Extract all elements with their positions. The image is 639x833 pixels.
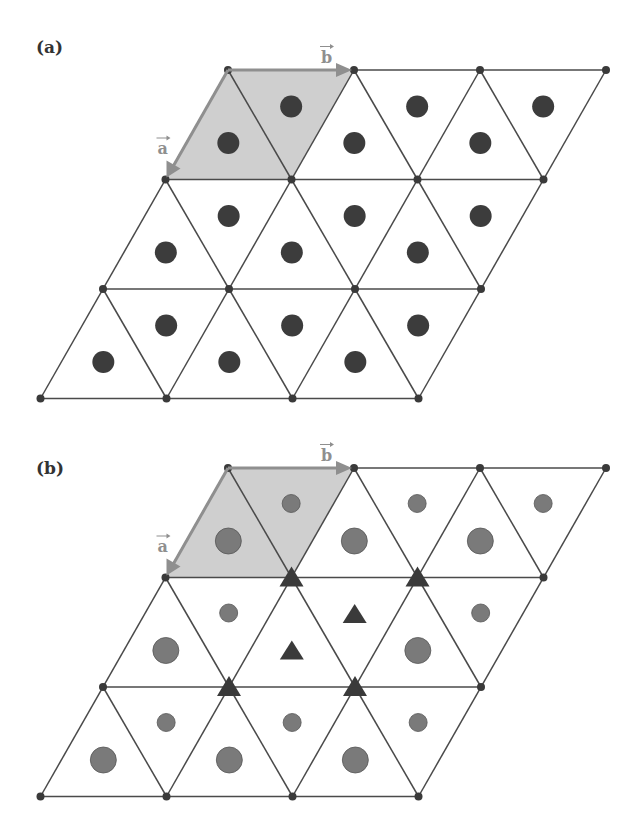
small-atom-dot (408, 495, 426, 513)
triangle-marker-icon (343, 676, 367, 696)
lattice-node (37, 395, 45, 403)
atom-dot (469, 132, 491, 154)
lattice-line (355, 289, 419, 399)
lattice-node (289, 793, 297, 801)
lattice-node (602, 464, 610, 472)
lattice-line (418, 180, 482, 290)
lattice-node (414, 176, 422, 184)
atom-dot (281, 315, 303, 337)
lattice-line (103, 687, 167, 797)
triangle-marker-icon (217, 676, 241, 696)
large-atom-dot (90, 747, 116, 773)
lattice-node (99, 285, 107, 293)
lattice-node (163, 395, 171, 403)
panel-label: (a) (36, 37, 63, 57)
lattice-line (354, 70, 418, 180)
atom-dot (344, 351, 366, 373)
triangle-marker-icon (343, 604, 367, 623)
lattice-line (166, 180, 230, 290)
lattice-node (288, 176, 296, 184)
large-atom-dot (405, 638, 431, 664)
lattice-line (419, 70, 607, 399)
lattice-line (229, 289, 293, 399)
panel-label: (b) (36, 458, 64, 478)
lattice-line (166, 578, 230, 688)
atom-dot (218, 351, 240, 373)
triangle-marker-icon (406, 567, 430, 587)
small-atom-dot (409, 714, 427, 732)
vector-a-label: a (158, 139, 168, 158)
lattice-node (477, 285, 485, 293)
lattice-line (103, 289, 167, 399)
atom-dot (407, 242, 429, 264)
large-atom-dot (341, 528, 367, 554)
lattice-node (415, 793, 423, 801)
atom-dot (344, 205, 366, 227)
atom-dot (155, 242, 177, 264)
lattice-node (162, 176, 170, 184)
lattice-node (225, 285, 233, 293)
small-atom-dot (472, 604, 490, 622)
vector-b-label: b (321, 48, 332, 67)
atom-dot (343, 132, 365, 154)
large-atom-dot (216, 747, 242, 773)
lattice-node (163, 793, 171, 801)
lattice-line (480, 468, 544, 578)
lattice-line (355, 687, 419, 797)
atom-dot (92, 351, 114, 373)
atom-dot (217, 132, 239, 154)
lattice-node (351, 285, 359, 293)
atom-dot (532, 96, 554, 118)
lattice-node (99, 683, 107, 691)
lattice-node (477, 683, 485, 691)
atom-dot (218, 205, 240, 227)
lattice-node (476, 66, 484, 74)
lattice-node (476, 464, 484, 472)
atom-dot (281, 242, 303, 264)
vector-a-label: a (158, 537, 168, 556)
small-atom-dot (220, 604, 238, 622)
small-atom-dot (534, 495, 552, 513)
lattice-node (37, 793, 45, 801)
lattice-node (162, 574, 170, 582)
lattice-node (289, 395, 297, 403)
triangle-marker-icon (280, 641, 304, 660)
lattice-line (354, 468, 418, 578)
lattice-line (419, 468, 607, 797)
large-atom-dot (342, 747, 368, 773)
large-atom-dot (215, 528, 241, 554)
lattice-line (418, 578, 482, 688)
lattice-line (229, 687, 293, 797)
atom-dot (280, 96, 302, 118)
atom-dot (407, 315, 429, 337)
lattice-line (292, 578, 356, 688)
small-atom-dot (157, 714, 175, 732)
atom-dot (406, 96, 428, 118)
atom-dot (470, 205, 492, 227)
small-atom-dot (282, 495, 300, 513)
lattice-line (480, 70, 544, 180)
vector-b-label: b (321, 446, 332, 465)
large-atom-dot (153, 638, 179, 664)
small-atom-dot (283, 714, 301, 732)
lattice-figure: ba(a)ba(b) (0, 0, 639, 833)
lattice-node (540, 176, 548, 184)
lattice-node (540, 574, 548, 582)
lattice-node (602, 66, 610, 74)
atom-dot (155, 315, 177, 337)
lattice-node (415, 395, 423, 403)
lattice-line (292, 180, 356, 290)
large-atom-dot (467, 528, 493, 554)
